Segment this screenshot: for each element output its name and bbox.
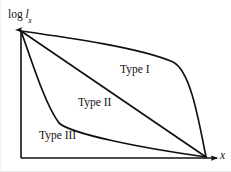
survivorship-curve-figure: log lx x Type I Type II Type III bbox=[0, 0, 231, 172]
x-axis-label: x bbox=[220, 150, 225, 162]
curve-label-type-1: Type I bbox=[120, 64, 150, 76]
y-axis-label-prefix: log bbox=[8, 8, 26, 20]
y-axis-label-subscript: x bbox=[28, 16, 32, 25]
y-axis-label: log lx bbox=[8, 9, 32, 23]
curve-label-type-3: Type III bbox=[39, 130, 76, 142]
plot-area bbox=[1, 0, 231, 172]
curve-label-type-2: Type II bbox=[78, 97, 111, 109]
